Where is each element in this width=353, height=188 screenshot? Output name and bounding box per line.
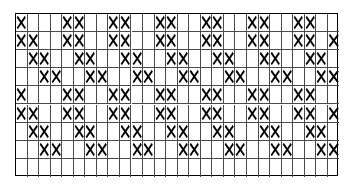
chart-cell-r8-c3[interactable] [39,141,51,159]
chart-cell-r7-c19[interactable] [224,123,236,141]
chart-cell-r1-c6[interactable] [74,14,86,32]
chart-cell-r4-c24[interactable] [282,68,294,86]
chart-cell-r6-c23[interactable] [270,105,282,123]
chart-cell-r9-c20[interactable] [235,159,247,177]
chart-cell-r9-c3[interactable] [39,159,51,177]
chart-cell-r3-c20[interactable] [235,50,247,68]
chart-cell-r6-c1[interactable] [16,105,28,123]
chart-cell-r2-c11[interactable] [132,32,144,50]
chart-cell-r7-c20[interactable] [235,123,247,141]
chart-cell-r6-c5[interactable] [62,105,74,123]
chart-cell-r6-c8[interactable] [97,105,109,123]
chart-cell-r1-c23[interactable] [270,14,282,32]
chart-cell-r1-c25[interactable] [293,14,305,32]
chart-cell-r1-c14[interactable] [166,14,178,32]
chart-cell-r6-c4[interactable] [51,105,63,123]
chart-cell-r4-c19[interactable] [224,68,236,86]
chart-cell-r7-c6[interactable] [74,123,86,141]
chart-cell-r4-c28[interactable] [328,68,340,86]
chart-cell-r6-c19[interactable] [224,105,236,123]
chart-cell-r3-c9[interactable] [108,50,120,68]
chart-cell-r2-c20[interactable] [235,32,247,50]
chart-cell-r9-c18[interactable] [212,159,224,177]
chart-cell-r3-c27[interactable] [316,50,328,68]
chart-cell-r6-c17[interactable] [201,105,213,123]
chart-cell-r2-c26[interactable] [305,32,317,50]
chart-cell-r8-c20[interactable] [235,141,247,159]
chart-cell-r3-c3[interactable] [39,50,51,68]
chart-cell-r3-c1[interactable] [16,50,28,68]
chart-cell-r9-c12[interactable] [143,159,155,177]
chart-cell-r4-c22[interactable] [259,68,271,86]
chart-cell-r5-c25[interactable] [293,86,305,104]
chart-cell-r7-c11[interactable] [132,123,144,141]
chart-cell-r3-c10[interactable] [120,50,132,68]
chart-cell-r3-c7[interactable] [85,50,97,68]
chart-cell-r7-c8[interactable] [97,123,109,141]
chart-cell-r2-c5[interactable] [62,32,74,50]
chart-cell-r7-c23[interactable] [270,123,282,141]
chart-cell-r1-c1[interactable] [16,14,28,32]
chart-cell-r1-c12[interactable] [143,14,155,32]
chart-cell-r2-c25[interactable] [293,32,305,50]
chart-cell-r6-c15[interactable] [178,105,190,123]
chart-cell-r1-c10[interactable] [120,14,132,32]
chart-cell-r2-c18[interactable] [212,32,224,50]
chart-cell-r2-c27[interactable] [316,32,328,50]
chart-cell-r4-c1[interactable] [16,68,28,86]
chart-cell-r1-c3[interactable] [39,14,51,32]
chart-cell-r2-c23[interactable] [270,32,282,50]
chart-cell-r5-c2[interactable] [28,86,40,104]
chart-cell-r5-c16[interactable] [189,86,201,104]
chart-cell-r8-c26[interactable] [305,141,317,159]
chart-cell-r9-c17[interactable] [201,159,213,177]
chart-cell-r1-c24[interactable] [282,14,294,32]
chart-cell-r8-c6[interactable] [74,141,86,159]
chart-cell-r8-c15[interactable] [178,141,190,159]
chart-cell-r6-c20[interactable] [235,105,247,123]
chart-cell-r9-c4[interactable] [51,159,63,177]
chart-cell-r1-c15[interactable] [178,14,190,32]
chart-cell-r3-c25[interactable] [293,50,305,68]
chart-cell-r8-c12[interactable] [143,141,155,159]
chart-cell-r8-c18[interactable] [212,141,224,159]
chart-cell-r2-c12[interactable] [143,32,155,50]
chart-cell-r1-c9[interactable] [108,14,120,32]
chart-cell-r2-c8[interactable] [97,32,109,50]
chart-cell-r1-c2[interactable] [28,14,40,32]
chart-cell-r7-c24[interactable] [282,123,294,141]
chart-cell-r9-c25[interactable] [293,159,305,177]
chart-cell-r4-c8[interactable] [97,68,109,86]
chart-cell-r7-c9[interactable] [108,123,120,141]
chart-cell-r8-c7[interactable] [85,141,97,159]
chart-cell-r2-c28[interactable] [328,32,340,50]
chart-cell-r8-c2[interactable] [28,141,40,159]
chart-cell-r4-c4[interactable] [51,68,63,86]
chart-cell-r2-c3[interactable] [39,32,51,50]
chart-cell-r2-c14[interactable] [166,32,178,50]
chart-cell-r6-c14[interactable] [166,105,178,123]
chart-cell-r5-c7[interactable] [85,86,97,104]
chart-cell-r6-c3[interactable] [39,105,51,123]
chart-cell-r8-c24[interactable] [282,141,294,159]
chart-cell-r4-c17[interactable] [201,68,213,86]
chart-cell-r6-c7[interactable] [85,105,97,123]
chart-cell-r1-c22[interactable] [259,14,271,32]
chart-cell-r1-c19[interactable] [224,14,236,32]
chart-cell-r2-c13[interactable] [155,32,167,50]
chart-cell-r8-c17[interactable] [201,141,213,159]
chart-cell-r6-c21[interactable] [247,105,259,123]
chart-cell-r3-c19[interactable] [224,50,236,68]
chart-cell-r1-c5[interactable] [62,14,74,32]
chart-cell-r2-c4[interactable] [51,32,63,50]
chart-cell-r3-c11[interactable] [132,50,144,68]
chart-cell-r5-c11[interactable] [132,86,144,104]
chart-cell-r4-c3[interactable] [39,68,51,86]
chart-cell-r9-c15[interactable] [178,159,190,177]
chart-cell-r3-c21[interactable] [247,50,259,68]
chart-cell-r9-c10[interactable] [120,159,132,177]
chart-cell-r2-c17[interactable] [201,32,213,50]
chart-cell-r9-c1[interactable] [16,159,28,177]
chart-cell-r2-c7[interactable] [85,32,97,50]
chart-cell-r7-c4[interactable] [51,123,63,141]
